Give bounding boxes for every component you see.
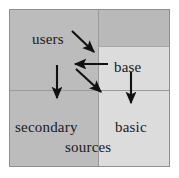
region-base-top-strip — [98, 10, 169, 46]
diagram-root: users base secondary sources basic — [0, 0, 179, 178]
label-base: base — [114, 60, 141, 75]
diagram-frame: users base secondary sources basic — [9, 9, 170, 167]
label-users: users — [32, 32, 64, 47]
label-secondary: secondary — [15, 120, 78, 135]
divider-base-top — [98, 46, 169, 47]
label-basic: basic — [115, 120, 147, 135]
label-sources: sources — [65, 140, 111, 155]
region-users — [10, 10, 98, 90]
divider-horizontal — [10, 90, 169, 91]
